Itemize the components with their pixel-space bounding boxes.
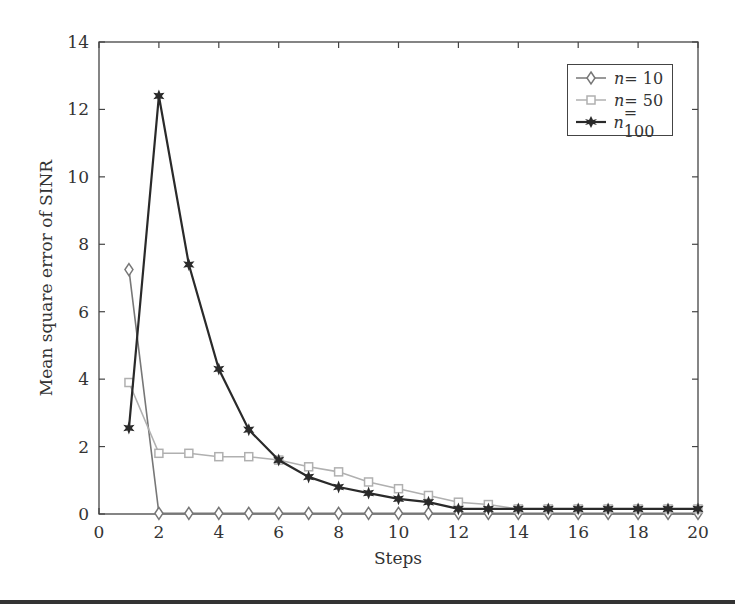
diamond-marker (424, 507, 432, 519)
diamond-marker (215, 507, 223, 519)
x-tick-label: 6 (273, 522, 284, 542)
diamond-marker (395, 507, 403, 519)
x-tick-label: 18 (627, 522, 649, 542)
diamond-marker (185, 507, 193, 519)
star-marker (153, 89, 164, 102)
y-tick-label: 4 (78, 369, 89, 389)
y-tick-label: 8 (78, 234, 89, 254)
diamond-marker (125, 264, 133, 276)
square-marker (155, 449, 163, 457)
series-line (129, 96, 698, 509)
diamond-marker (305, 507, 313, 519)
diamond-marker (335, 507, 343, 519)
x-tick-label: 2 (153, 522, 164, 542)
square-marker (365, 478, 373, 486)
diamond-marker (275, 507, 283, 519)
x-tick-label: 14 (507, 522, 529, 542)
series-line (129, 270, 698, 514)
diamond-marker (245, 507, 253, 519)
x-tick-label: 20 (687, 522, 709, 542)
square-marker (185, 449, 193, 457)
square-marker (395, 485, 403, 493)
star-marker-icon (574, 111, 607, 133)
y-tick-label: 6 (78, 302, 89, 322)
star-marker (213, 363, 224, 376)
legend-var: n (614, 69, 624, 88)
diamond-marker-icon (574, 67, 608, 89)
x-tick-label: 4 (213, 522, 224, 542)
series-line (129, 383, 698, 509)
y-tick-label: 12 (67, 99, 89, 119)
square-marker (215, 453, 223, 461)
y-axis-title: Mean square error of SINR (36, 160, 56, 396)
star-marker (303, 470, 314, 483)
y-tick-label: 14 (67, 32, 89, 52)
legend-label: = 10 (624, 69, 663, 88)
legend-var: n (614, 91, 624, 110)
diamond-marker (155, 507, 163, 519)
square-marker (245, 453, 253, 461)
square-marker (335, 468, 343, 476)
legend-item-n10: n = 10 (574, 67, 663, 89)
x-axis-title: Steps (374, 548, 422, 568)
star-marker (123, 422, 134, 435)
diamond-marker (365, 507, 373, 519)
y-tick-label: 10 (67, 167, 89, 187)
x-tick-label: 0 (94, 522, 105, 542)
x-tick-label: 12 (448, 522, 470, 542)
y-tick-label: 0 (78, 504, 89, 524)
square-marker-icon (574, 89, 608, 111)
x-tick-label: 10 (388, 522, 410, 542)
legend: n = 10 n = 50 n = 100 (567, 64, 673, 136)
bottom-border (0, 600, 735, 604)
legend-item-n100: n = 100 (574, 111, 672, 133)
legend-label: = 100 (624, 103, 672, 141)
legend-var: n (613, 113, 623, 132)
y-tick-label: 2 (78, 437, 89, 457)
x-tick-label: 8 (333, 522, 344, 542)
x-tick-label: 16 (567, 522, 589, 542)
star-marker (183, 258, 194, 271)
square-marker (305, 463, 313, 471)
